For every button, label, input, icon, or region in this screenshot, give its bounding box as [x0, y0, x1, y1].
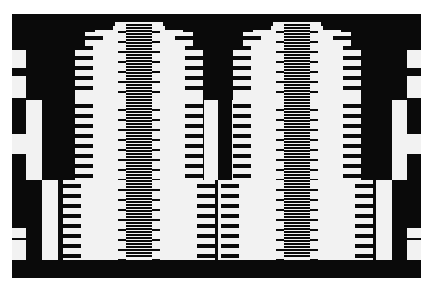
motif-tick: [276, 119, 284, 121]
motif-tongue: [323, 26, 341, 30]
side-column-block: [12, 194, 26, 214]
motif-tick: [310, 119, 318, 121]
motif-tongue: [355, 204, 373, 208]
motif-tongue: [63, 194, 81, 198]
motif-tongue: [221, 224, 239, 228]
motif-tongue: [343, 144, 361, 148]
motif-tick: [310, 31, 318, 33]
motif-tongue: [343, 164, 361, 168]
motif-tick: [118, 219, 126, 221]
motif-tongue: [221, 214, 239, 218]
motif-tongue: [185, 46, 203, 50]
motif-tongue: [221, 254, 239, 258]
motif-tongue: [185, 56, 203, 60]
motif-tongue: [197, 214, 215, 218]
motif-tick: [152, 169, 160, 171]
motif-tick: [118, 71, 126, 73]
motif-tongue: [233, 174, 251, 178]
motif-tongue: [233, 86, 251, 90]
motif-tick: [310, 229, 318, 231]
motif-tick: [118, 229, 126, 231]
motif-tick: [118, 149, 126, 151]
motif-tick: [152, 41, 160, 43]
motif-tongue: [185, 86, 203, 90]
motif-tongue: [333, 36, 351, 40]
motif-tick: [118, 239, 126, 241]
motif-tongue: [75, 164, 93, 168]
motif-tongue: [343, 124, 361, 128]
motif-tongue: [343, 86, 361, 90]
motif-tongue: [197, 224, 215, 228]
motif-tick: [152, 71, 160, 73]
motif-tick: [310, 189, 318, 191]
motif-tick: [276, 71, 284, 73]
motif-tick: [276, 169, 284, 171]
motif-tick: [310, 71, 318, 73]
motif-tick: [310, 249, 318, 251]
motif-tick: [276, 199, 284, 201]
motif-tick: [310, 159, 318, 161]
motif-tick: [152, 229, 160, 231]
motif-tongue: [63, 224, 81, 228]
motif-tick: [310, 91, 318, 93]
side-column-block: [12, 76, 26, 98]
motif-tick: [310, 61, 318, 63]
motif-tongue: [185, 144, 203, 148]
gutter-stripe: [218, 100, 232, 180]
motif-tick: [310, 239, 318, 241]
side-column-block: [407, 114, 421, 126]
textile-pattern-canvas: [0, 0, 431, 291]
motif-tick: [276, 209, 284, 211]
motif-tick: [152, 129, 160, 131]
gutter-stripe: [42, 180, 58, 260]
motif-tongue: [185, 164, 203, 168]
motif-tongue: [355, 214, 373, 218]
motif-tick: [276, 249, 284, 251]
motif-tongue: [63, 254, 81, 258]
side-column-block: [407, 50, 421, 68]
motif-tick: [118, 169, 126, 171]
side-column-block: [407, 134, 421, 154]
motif-tongue: [63, 214, 81, 218]
motif-tongue: [343, 114, 361, 118]
motif-tongue: [185, 66, 203, 70]
motif-tongue: [63, 244, 81, 248]
motif-tongue: [185, 76, 203, 80]
motif-tongue: [355, 234, 373, 238]
motif-tongue: [233, 154, 251, 158]
motif-tick: [152, 189, 160, 191]
motif-tick: [310, 169, 318, 171]
motif-tongue: [75, 114, 93, 118]
motif-tick: [276, 41, 284, 43]
motif-tick: [310, 51, 318, 53]
motif-tick: [310, 219, 318, 221]
motif-tongue: [343, 154, 361, 158]
motif-tongue: [221, 244, 239, 248]
motif-tick: [118, 139, 126, 141]
motif-tick: [276, 61, 284, 63]
motif-tongue: [185, 154, 203, 158]
motif-tick: [276, 219, 284, 221]
motif-tick: [118, 51, 126, 53]
motif-tongue: [233, 114, 251, 118]
motif-tongue: [355, 194, 373, 198]
side-column-block: [407, 228, 421, 238]
motif-tongue: [75, 154, 93, 158]
motif-tick: [118, 81, 126, 83]
motif-tongue: [221, 204, 239, 208]
gutter-stripe: [204, 100, 218, 180]
motif-tick: [118, 61, 126, 63]
motif-tongue: [85, 36, 103, 40]
motif-tongue: [233, 164, 251, 168]
motif-tongue: [343, 56, 361, 60]
motif-tongue: [233, 56, 251, 60]
motif-tick: [118, 249, 126, 251]
motif-tick: [310, 129, 318, 131]
motif-tick: [118, 91, 126, 93]
motif-tick: [276, 91, 284, 93]
motif-tick: [276, 149, 284, 151]
motif-tick: [310, 139, 318, 141]
gutter-stripe: [42, 100, 58, 180]
motif-tick: [152, 159, 160, 161]
stripe-gap: [126, 257, 152, 258]
